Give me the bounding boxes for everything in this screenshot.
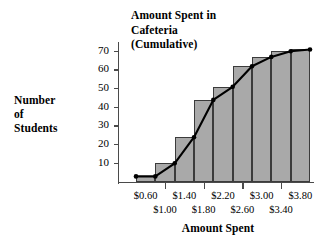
y-axis-tick-label: 50 — [98, 81, 109, 93]
x-axis-tick-label: $1.80 — [192, 203, 216, 216]
y-axis-tick-label: 60 — [98, 62, 109, 74]
cumulative-line-series — [118, 40, 318, 186]
y-axis-title-line-3: Students — [14, 121, 100, 135]
y-axis-tick-label: 20 — [98, 137, 109, 149]
chart-title-line-1: Amount Spent in — [131, 8, 321, 23]
data-point-marker — [230, 85, 235, 90]
y-axis-tick-label: 40 — [98, 100, 109, 112]
data-point-marker — [134, 174, 139, 179]
x-axis-tick-label: $1.00 — [153, 203, 177, 216]
x-axis-tick-label: $3.80 — [289, 189, 313, 202]
y-axis-title-line-2: of — [14, 107, 100, 121]
data-point-marker — [250, 64, 255, 69]
y-axis-title: Number of Students — [14, 93, 100, 135]
chart-title-line-2: Cafeteria — [131, 23, 321, 38]
x-axis-title: Amount Spent — [118, 222, 318, 234]
x-axis-labels-top-row: $0.60$1.40$2.20$3.00$3.80 — [118, 189, 328, 203]
x-axis-tick-label: $1.40 — [173, 189, 197, 202]
cumulative-line-markers — [134, 47, 313, 179]
x-axis-tick-label: $2.20 — [211, 189, 235, 202]
y-axis-title-line-1: Number — [14, 93, 100, 107]
cafeteria-cumulative-chart: Number of Students Amount Spent in Cafet… — [0, 0, 336, 245]
y-axis-tick-label: 10 — [98, 156, 109, 168]
data-point-marker — [192, 135, 197, 140]
data-point-marker — [308, 47, 313, 52]
data-point-marker — [172, 161, 177, 166]
y-axis-tick-label: 30 — [98, 118, 109, 130]
cumulative-line-path — [136, 50, 310, 177]
x-axis-tick-label: $2.60 — [231, 203, 255, 216]
data-point-marker — [211, 98, 216, 103]
x-axis-tick-label: $0.60 — [134, 189, 158, 202]
data-point-marker — [269, 55, 274, 60]
x-axis-tick-label: $3.40 — [269, 203, 293, 216]
plot-area: 10203040506070 $0.60$1.40$2.20$3.00$3.80… — [118, 40, 318, 186]
x-axis-labels-bottom-row: $1.00$1.80$2.60$3.40 — [118, 203, 328, 217]
data-point-marker — [153, 174, 158, 179]
data-point-marker — [288, 49, 293, 54]
x-axis-tick-label: $3.00 — [250, 189, 274, 202]
y-axis-tick-label: 70 — [98, 44, 109, 56]
